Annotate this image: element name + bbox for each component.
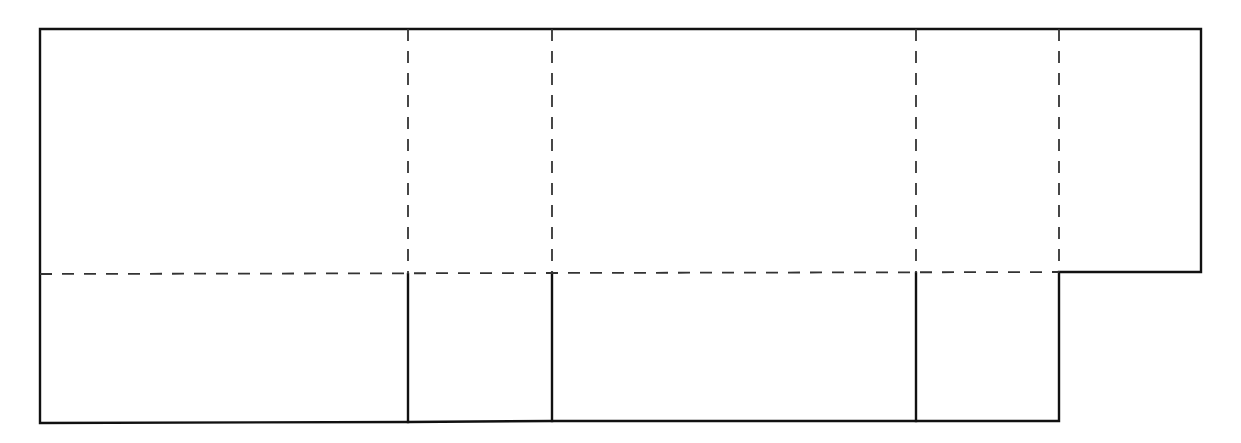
net-outline xyxy=(40,29,1201,423)
fold-line-horizontal-fold xyxy=(40,272,1059,274)
cut-lines xyxy=(40,29,1201,423)
fold-lines xyxy=(40,29,1059,274)
box-net-diagram xyxy=(0,0,1241,443)
